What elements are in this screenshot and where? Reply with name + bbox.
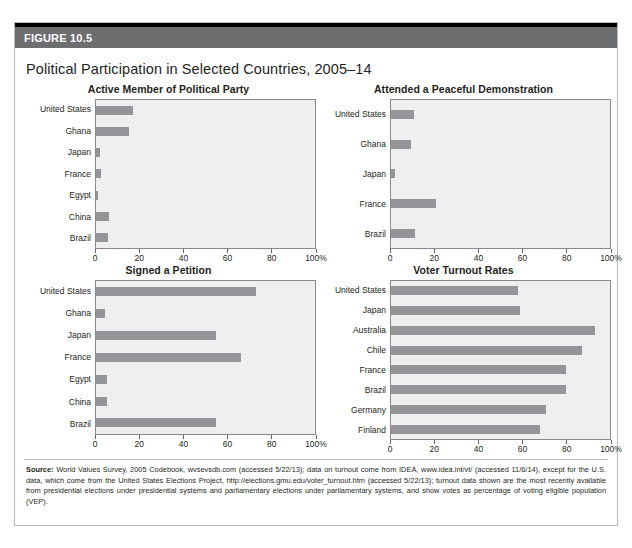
bar-row	[96, 375, 315, 384]
source-note: Source: World Values Survey, 2005 Codebo…	[15, 460, 617, 507]
figure-title: Political Participation in Selected Coun…	[15, 48, 617, 83]
bar-row	[96, 148, 315, 157]
category-label: Australia	[316, 326, 386, 335]
axis-tick-label: 0	[388, 444, 393, 454]
bar	[391, 326, 595, 335]
category-label: Egypt	[21, 375, 91, 384]
bar	[391, 425, 540, 434]
category-axis: United StatesGhanaJapanFranceEgyptChinaB…	[21, 280, 95, 435]
figure-number-label: FIGURE 10.5	[24, 32, 92, 44]
axis-tick-label: 40	[474, 253, 483, 263]
category-label: France	[316, 200, 386, 209]
category-label: Brazil	[316, 386, 386, 395]
bar	[96, 287, 256, 296]
bar-row	[96, 331, 315, 340]
bar	[96, 418, 216, 427]
bar	[96, 353, 241, 362]
category-label: Japan	[21, 331, 91, 340]
figure-header-bar: FIGURE 10.5	[15, 27, 617, 48]
bar	[391, 140, 411, 149]
bar-row	[96, 212, 315, 221]
axis-tick-label: 40	[179, 253, 188, 263]
category-label: Germany	[316, 406, 386, 415]
bar	[96, 375, 107, 384]
bar	[391, 346, 582, 355]
axis-tick-label: 40	[179, 439, 188, 449]
bar	[96, 397, 107, 406]
chart-panel: Signed a PetitionUnited StatesGhanaJapan…	[21, 264, 316, 455]
category-axis: United StatesJapanAustraliaChileFranceBr…	[316, 280, 390, 440]
axis-tick-label: 100%	[600, 444, 622, 454]
category-axis: United StatesGhanaJapanFranceEgyptChinaB…	[21, 99, 95, 249]
category-label: United States	[21, 105, 91, 114]
category-label: China	[21, 213, 91, 222]
chart-plot-body: United StatesGhanaJapanFranceBrazil	[316, 99, 611, 249]
bar	[96, 212, 109, 221]
category-label: Japan	[21, 148, 91, 157]
category-label: Finland	[316, 426, 386, 435]
chart-panel: Attended a Peaceful DemonstrationUnited …	[316, 83, 611, 264]
plot-area	[95, 280, 316, 435]
bar-row	[96, 106, 315, 115]
bar-row	[391, 286, 610, 295]
chart-plot-body: United StatesGhanaJapanFranceEgyptChinaB…	[21, 280, 316, 435]
category-label: France	[316, 366, 386, 375]
bar	[391, 199, 436, 208]
category-label: United States	[316, 110, 386, 119]
bar-row	[391, 229, 610, 238]
category-label: Japan	[316, 306, 386, 315]
category-label: United States	[21, 287, 91, 296]
bar-row	[391, 199, 610, 208]
source-text: World Values Survey, 2005 Codebook, wvse…	[26, 465, 606, 506]
bar-row	[391, 405, 610, 414]
bar	[96, 148, 100, 157]
bar	[391, 229, 415, 238]
bar-row	[391, 110, 610, 119]
bar-row	[391, 425, 610, 434]
bar-row	[96, 127, 315, 136]
category-label: Brazil	[21, 234, 91, 243]
value-axis: 020406080100%	[95, 435, 316, 450]
category-label: France	[21, 353, 91, 362]
axis-tick-label: 60	[223, 439, 232, 449]
category-label: Chile	[316, 346, 386, 355]
bar	[96, 106, 133, 115]
plot-area	[390, 280, 611, 440]
bar	[96, 191, 98, 200]
bar-row	[391, 365, 610, 374]
bar-row	[96, 309, 315, 318]
bar-row	[96, 287, 315, 296]
bar	[391, 405, 546, 414]
chart-plot-body: United StatesJapanAustraliaChileFranceBr…	[316, 280, 611, 440]
bar	[391, 306, 520, 315]
bar-row	[96, 397, 315, 406]
bar-row	[391, 385, 610, 394]
value-axis: 020406080100%	[95, 249, 316, 264]
category-label: Ghana	[21, 127, 91, 136]
axis-tick-label: 80	[562, 253, 571, 263]
bar	[391, 385, 566, 394]
category-label: Japan	[316, 170, 386, 179]
bar	[391, 110, 414, 119]
axis-tick-label: 80	[267, 253, 276, 263]
category-label: Egypt	[21, 191, 91, 200]
chart-panel: Voter Turnout RatesUnited StatesJapanAus…	[316, 264, 611, 455]
bar	[96, 169, 101, 178]
bar-row	[391, 140, 610, 149]
figure-box: FIGURE 10.5 Political Participation in S…	[14, 22, 618, 526]
axis-tick-label: 20	[429, 444, 438, 454]
bar-row	[96, 353, 315, 362]
axis-tick-label: 60	[223, 253, 232, 263]
category-label: United States	[316, 286, 386, 295]
source-label: Source:	[26, 465, 54, 474]
bar-row	[96, 169, 315, 178]
axis-tick-label: 100%	[600, 253, 622, 263]
axis-tick-label: 60	[518, 444, 527, 454]
bar	[96, 331, 216, 340]
bar	[391, 169, 395, 178]
axis-tick-label: 20	[134, 439, 143, 449]
value-axis: 020406080100%	[390, 440, 611, 455]
bar-row	[391, 169, 610, 178]
chart-grid: Active Member of Political PartyUnited S…	[15, 83, 617, 455]
bar	[391, 286, 518, 295]
